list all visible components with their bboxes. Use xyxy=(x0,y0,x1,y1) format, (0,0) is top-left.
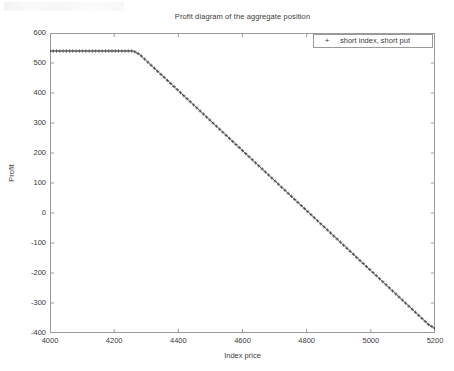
series-marker-plus-icon xyxy=(104,49,107,52)
series-marker-plus-icon xyxy=(110,49,113,52)
x-axis-tick-labels: 4000420044004600480050005200 xyxy=(50,336,435,348)
series-marker-plus-icon xyxy=(84,49,87,52)
series-marker-plus-icon xyxy=(91,49,94,52)
series-marker-plus-icon xyxy=(107,49,110,52)
legend-entry-label: short index, short put xyxy=(340,37,410,45)
y-tick-label: -100 xyxy=(4,239,46,247)
series-marker-plus-icon xyxy=(55,49,58,52)
x-tick-label: 4000 xyxy=(28,336,72,345)
series-marker-plus-icon xyxy=(117,49,120,52)
y-tick-label: 0 xyxy=(4,209,46,217)
series-marker-plus-icon xyxy=(101,49,104,52)
series-marker-plus-icon xyxy=(130,49,133,52)
data-series xyxy=(50,49,435,330)
x-tick-label: 4400 xyxy=(156,336,200,345)
series-marker-plus-icon xyxy=(97,49,100,52)
series-marker-plus-icon xyxy=(58,49,61,52)
y-axis-label: Profit xyxy=(7,143,17,203)
series-marker-plus-icon xyxy=(68,49,71,52)
series-marker-plus-icon xyxy=(94,49,97,52)
legend-marker-plus-icon: + xyxy=(314,37,340,45)
series-marker-plus-icon xyxy=(114,49,117,52)
figure-canvas: Profit diagram of the aggregate position… xyxy=(0,0,454,371)
x-tick-label: 4800 xyxy=(285,336,329,345)
series-marker-plus-icon xyxy=(136,52,139,55)
series-marker-plus-icon xyxy=(52,49,55,52)
x-tick-label: 5200 xyxy=(413,336,454,345)
series-marker-plus-icon xyxy=(87,49,90,52)
series-marker-plus-icon xyxy=(133,50,136,53)
y-tick-label: -200 xyxy=(4,269,46,277)
legend-box: + short index, short put xyxy=(313,34,433,48)
x-axis-label: Index price xyxy=(50,351,435,361)
y-tick-label: 500 xyxy=(4,59,46,67)
series-marker-plus-icon xyxy=(123,49,126,52)
series-marker-plus-icon xyxy=(65,49,68,52)
chart-title: Profit diagram of the aggregate position xyxy=(50,12,435,22)
series-marker-plus-icon xyxy=(61,49,64,52)
series-marker-plus-icon xyxy=(120,49,123,52)
series-marker-plus-icon xyxy=(81,49,84,52)
series-marker-plus-icon xyxy=(127,49,130,52)
plot-area xyxy=(50,33,435,333)
series-marker-plus-icon xyxy=(78,49,81,52)
scan-artifact xyxy=(4,2,124,11)
y-tick-label: 400 xyxy=(4,89,46,97)
y-tick-label: 300 xyxy=(4,119,46,127)
y-tick-label: -300 xyxy=(4,299,46,307)
axis-ticks xyxy=(50,33,435,333)
x-tick-label: 4600 xyxy=(221,336,265,345)
series-marker-plus-icon xyxy=(74,49,77,52)
series-marker-plus-icon xyxy=(50,49,52,52)
series-marker-plus-icon xyxy=(71,49,74,52)
x-tick-label: 4200 xyxy=(92,336,136,345)
series-line xyxy=(50,51,435,329)
y-tick-label: 600 xyxy=(4,29,46,37)
x-tick-label: 5000 xyxy=(349,336,393,345)
data-series-group xyxy=(50,49,435,330)
